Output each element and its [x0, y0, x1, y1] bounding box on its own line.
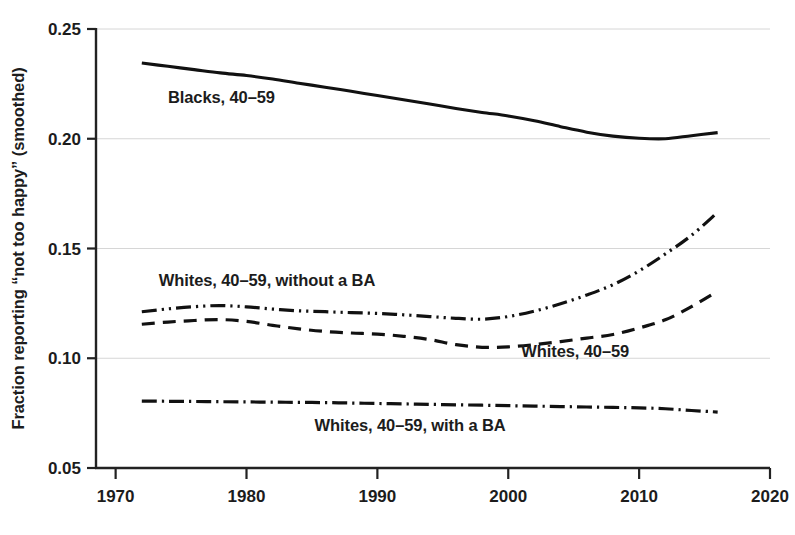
y-tick-label-0.15: 0.15: [48, 240, 81, 259]
line-chart: 0.050.100.150.200.25 1970198019902000201…: [0, 0, 795, 535]
chart-container: 0.050.100.150.200.25 1970198019902000201…: [0, 0, 795, 535]
x-tick-label-1970: 1970: [97, 487, 135, 506]
y-tick-label-0.05: 0.05: [48, 459, 81, 478]
series-annotation-3: Whites, 40–59, with a BA: [315, 416, 506, 434]
y-tick-label-0.25: 0.25: [48, 20, 81, 39]
series-annotation-0: Blacks, 40–59: [168, 88, 275, 106]
series-annotation-2: Whites, 40–59: [521, 342, 629, 360]
x-tick-label-2000: 2000: [489, 487, 527, 506]
x-tick-label-2010: 2010: [620, 487, 658, 506]
x-tick-label-1990: 1990: [358, 487, 396, 506]
y-axis-title: Fraction reporting “not too happy” (smoo…: [9, 67, 27, 429]
x-tick-label-2020: 2020: [751, 487, 789, 506]
y-tick-label-0.10: 0.10: [48, 349, 81, 368]
y-axis-title-text: Fraction reporting “not too happy” (smoo…: [9, 67, 27, 429]
x-tick-label-1980: 1980: [228, 487, 266, 506]
chart-background: [0, 0, 795, 535]
series-annotation-1: Whites, 40–59, without a BA: [159, 271, 376, 289]
y-tick-label-0.20: 0.20: [48, 130, 81, 149]
